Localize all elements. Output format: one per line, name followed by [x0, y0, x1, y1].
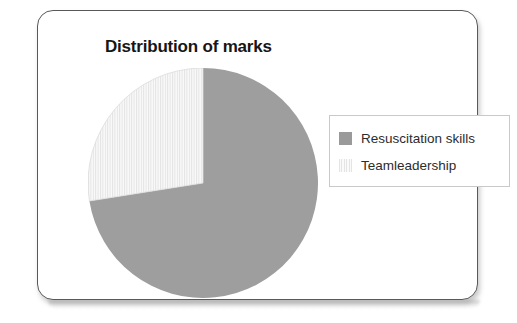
chart-card: Distribution of marks — [37, 10, 478, 300]
legend-item-teamleadership[interactable]: Teamleadership — [339, 152, 509, 179]
card-drop-shadow — [48, 300, 480, 308]
figure-root: Distribution of marks — [0, 0, 517, 323]
legend-item-label: Resuscitation skills — [361, 132, 475, 146]
chart-title: Distribution of marks — [105, 37, 272, 57]
pie-chart-svg — [88, 68, 318, 298]
light-striped-swatch-icon — [339, 159, 352, 172]
solid-gray-swatch-icon — [339, 132, 352, 145]
pie-chart — [88, 68, 318, 298]
pie-slice-teamleadership — [88, 68, 203, 201]
legend-item-label: Teamleadership — [361, 159, 456, 173]
chart-legend: Resuscitation skills Teamleadership — [329, 115, 510, 187]
legend-item-resuscitation-skills[interactable]: Resuscitation skills — [339, 125, 509, 152]
